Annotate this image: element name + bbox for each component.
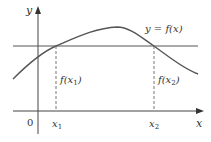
function-diagram: y x 0 y = f(x) x1 x2 f(x1) f(x2) [0,0,211,142]
fx2-label: f(x2) [157,74,180,87]
x1-label: x1 [52,118,62,131]
x-axis-arrow-icon [196,108,204,114]
function-curve [13,27,198,79]
fx1-label: f(x1) [59,74,82,87]
y-axis-label: y [25,4,33,17]
curve-label: y = f(x) [144,23,183,34]
x2-label: x2 [149,118,159,131]
x-axis-label: x [196,117,203,130]
y-axis-arrow-icon [35,6,41,14]
origin-label: 0 [27,117,33,128]
